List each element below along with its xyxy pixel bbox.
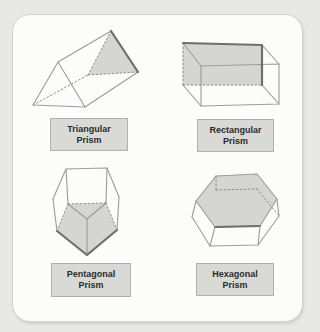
rectangular-prism-label-line1: Rectangular — [209, 125, 261, 136]
triangular-prism-label-line2: Prism — [76, 135, 101, 146]
hexagonal-prism-figure — [192, 174, 279, 246]
rectangular-prism-label: Rectangular Prism — [197, 119, 274, 152]
pentagonal-prism-label-line1: Pentagonal — [67, 269, 116, 280]
triangular-prism-label-line1: Triangular — [67, 124, 111, 135]
rectangular-prism-shaded-face — [183, 43, 262, 85]
triangular-prism-figure — [33, 31, 138, 107]
triangular-prism-label: Triangular Prism — [50, 118, 128, 151]
triangular-prism-shaded-face — [88, 31, 138, 75]
rectangular-prism-figure — [183, 43, 279, 106]
hexagonal-prism-label-line1: Hexagonal — [212, 269, 258, 280]
pentagonal-prism-label: Pentagonal Prism — [51, 263, 131, 297]
hexagonal-prism-label: Hexagonal Prism — [196, 263, 274, 296]
pentagonal-prism-figure — [53, 168, 119, 255]
rectangular-prism-label-line2: Prism — [223, 136, 248, 147]
hexagonal-prism-label-line2: Prism — [222, 280, 247, 291]
pentagonal-prism-label-line2: Prism — [78, 280, 103, 291]
